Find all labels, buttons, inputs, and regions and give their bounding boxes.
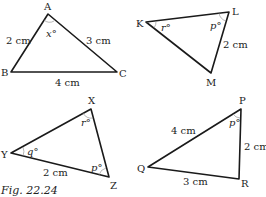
- angle-k-label: r°: [161, 22, 171, 33]
- vertex-m-label: M: [206, 77, 216, 88]
- vertex-l-label: L: [232, 6, 239, 17]
- side-yz-length: 2 cm: [43, 167, 68, 178]
- vertex-q-label: Q: [137, 163, 145, 174]
- side-bc-length: 4 cm: [55, 77, 80, 88]
- vertex-a-label: A: [43, 1, 52, 12]
- vertex-z-label: Z: [110, 180, 117, 191]
- angle-l-label: p°: [210, 20, 221, 31]
- figure-canvas: A B C 2 cm 3 cm 4 cm x° K L M 2 cm r° p°…: [0, 0, 266, 197]
- figure-caption: Fig. 22.24: [0, 184, 58, 197]
- triangle-pqr: P Q R 4 cm 2 cm 3 cm p°: [137, 95, 266, 189]
- vertex-p-label: P: [239, 95, 246, 106]
- vertex-c-label: C: [119, 68, 127, 79]
- angle-a-arc: [44, 20, 54, 22]
- angle-k-arc: [154, 21, 156, 28]
- side-ac-length: 3 cm: [86, 35, 111, 46]
- triangle-xyz: X Y Z 2 cm r° q° p°: [0, 95, 117, 191]
- angle-z-label: p°: [91, 162, 102, 173]
- vertex-x-label: X: [88, 95, 96, 106]
- side-qr-length: 3 cm: [183, 176, 208, 187]
- angle-a-label: x°: [46, 28, 57, 39]
- vertex-b-label: B: [1, 67, 8, 78]
- angle-p-label: p°: [229, 117, 240, 128]
- vertex-y-label: Y: [0, 149, 8, 160]
- triangle-abc: A B C 2 cm 3 cm 4 cm x°: [1, 1, 127, 88]
- angle-x-label: r°: [81, 117, 91, 128]
- side-pr-length: 2 cm: [244, 141, 266, 152]
- vertex-k-label: K: [136, 18, 144, 29]
- vertex-r-label: R: [241, 178, 249, 189]
- triangle-pqr-edges: [148, 109, 241, 179]
- side-ab-length: 2 cm: [6, 35, 31, 46]
- side-pq-length: 4 cm: [171, 125, 196, 136]
- triangle-klm: K L M 2 cm r° p°: [136, 6, 248, 88]
- angle-y-label: q°: [27, 146, 38, 157]
- angle-y-arc: [23, 147, 24, 156]
- side-lm-length: 2 cm: [223, 39, 248, 50]
